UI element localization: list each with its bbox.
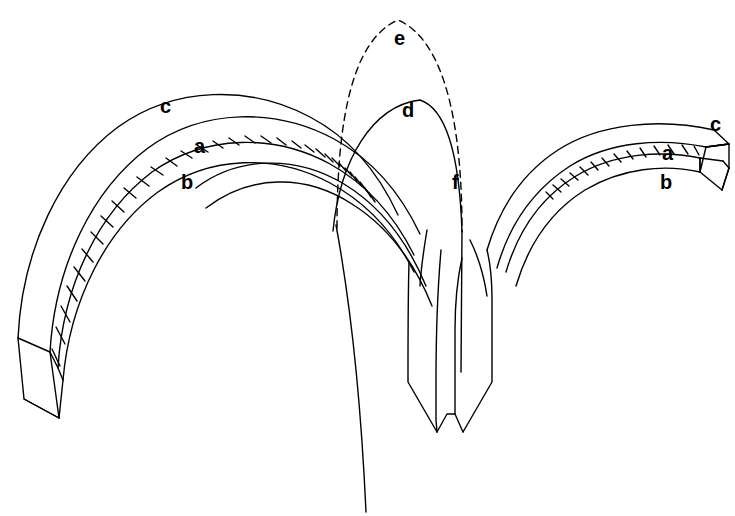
right-arch-band-top-front — [497, 142, 706, 268]
label-a-left: a — [194, 136, 205, 156]
right-arch-intrados-front — [516, 168, 700, 286]
solid-arch-profile-d — [333, 100, 462, 232]
label-d: d — [402, 100, 414, 120]
label-f: f — [452, 172, 459, 192]
architectural-arch-diagram — [0, 0, 735, 516]
left-arch-soffit-inner — [196, 163, 426, 286]
right-end-block — [700, 130, 729, 190]
label-e: e — [394, 28, 405, 48]
left-arch-voussoir-joints — [52, 136, 375, 366]
left-arch-extrados-back — [18, 94, 398, 338]
left-arch-band-bottom — [58, 142, 414, 368]
central-pier — [408, 230, 492, 432]
right-arch-voussoir-joints — [546, 145, 699, 199]
drawing-canvas: c a b e d f c a b — [0, 0, 735, 516]
label-c-right: c — [710, 114, 721, 134]
left-end-block — [18, 338, 63, 418]
central-rib-line-f — [461, 230, 462, 372]
left-arch-band-top-front — [50, 117, 420, 352]
label-b-right: b — [660, 172, 672, 192]
label-c-left: c — [160, 96, 171, 116]
label-a-right: a — [662, 143, 673, 163]
label-b-left: b — [181, 172, 193, 192]
long-diagonal-line — [336, 225, 366, 512]
